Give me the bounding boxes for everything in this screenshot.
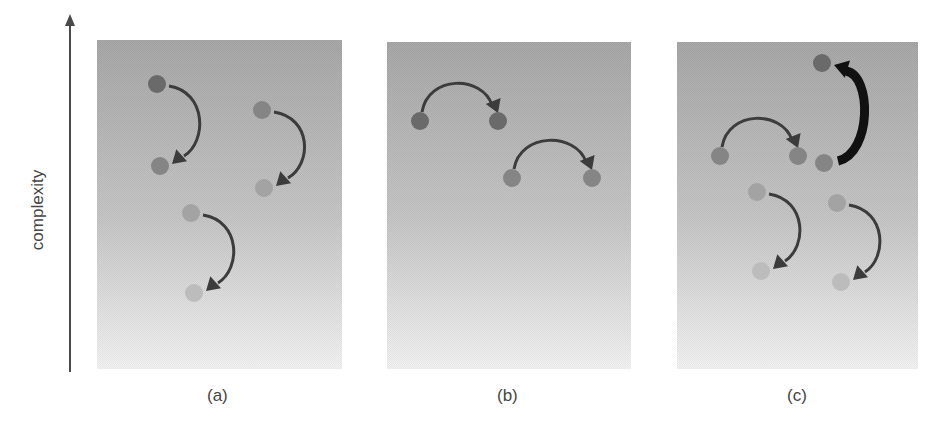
state-dot xyxy=(151,157,169,175)
diagram-canvas xyxy=(0,0,949,427)
state-dot xyxy=(255,179,273,197)
state-dot xyxy=(489,112,507,130)
state-dot xyxy=(503,169,521,187)
state-dot xyxy=(752,262,770,280)
state-dot xyxy=(711,147,729,165)
state-dot xyxy=(253,101,271,119)
state-dot xyxy=(411,112,429,130)
panel-texture xyxy=(677,42,918,369)
state-dot xyxy=(815,154,833,172)
state-dot xyxy=(185,284,203,302)
panel-c xyxy=(677,42,918,369)
state-dot xyxy=(748,183,766,201)
state-dot xyxy=(182,204,200,222)
state-dot xyxy=(148,75,166,93)
panel-texture xyxy=(387,42,631,369)
state-dot xyxy=(813,54,831,72)
axis-label-complexity: complexity xyxy=(28,170,48,250)
state-dot xyxy=(789,147,807,165)
panel-label-c: (c) xyxy=(787,386,807,406)
state-dot xyxy=(832,273,850,291)
panel-a xyxy=(97,40,342,369)
panel-label-a: (a) xyxy=(207,386,228,406)
axis-arrowhead-icon xyxy=(65,14,75,26)
state-dot xyxy=(828,194,846,212)
complexity-axis xyxy=(65,14,75,372)
state-dot xyxy=(583,169,601,187)
panel-texture xyxy=(97,40,342,369)
panels-layer xyxy=(97,40,918,369)
panel-b xyxy=(387,42,631,369)
panel-label-b: (b) xyxy=(497,386,518,406)
